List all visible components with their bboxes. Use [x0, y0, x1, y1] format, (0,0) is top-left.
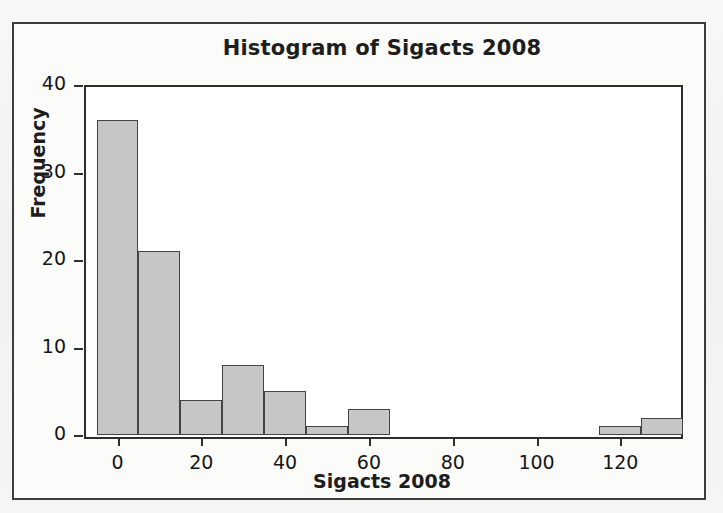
x-axis-tick-mark: [537, 437, 539, 446]
histogram-bar: [97, 120, 139, 435]
y-axis-tick-label: 0: [12, 422, 66, 444]
y-axis-tick-label: 10: [12, 335, 66, 357]
x-axis-tick-label: 0: [88, 451, 148, 473]
plot-area: [84, 85, 679, 435]
x-axis-tick-mark: [118, 437, 120, 446]
y-axis-tick-label: 20: [12, 247, 66, 269]
x-axis-title: Sigacts 2008: [84, 470, 680, 492]
histogram-bar: [599, 426, 641, 435]
x-axis-tick-mark: [285, 437, 287, 446]
histogram-figure: Histogram of Sigacts 2008 Frequency Siga…: [0, 0, 723, 513]
y-axis-tick-mark: [74, 348, 83, 350]
chart-title: Histogram of Sigacts 2008: [84, 36, 680, 60]
y-axis-tick-mark: [74, 435, 83, 437]
y-axis-tick-mark: [74, 85, 83, 87]
histogram-bar: [348, 409, 390, 435]
y-axis-tick-mark: [74, 173, 83, 175]
x-axis-tick-label: 80: [423, 451, 483, 473]
x-axis-tick-label: 100: [507, 451, 567, 473]
x-axis-tick-label: 20: [171, 451, 231, 473]
histogram-bar: [222, 365, 264, 435]
x-axis-tick-mark: [453, 437, 455, 446]
x-axis-tick-label: 60: [339, 451, 399, 473]
histogram-bar: [264, 391, 306, 435]
y-axis-tick-mark: [74, 260, 83, 262]
x-axis-tick-mark: [201, 437, 203, 446]
histogram-bar: [306, 426, 348, 435]
histogram-bar: [180, 400, 222, 435]
histogram-bar: [641, 418, 683, 436]
x-axis-tick-mark: [369, 437, 371, 446]
y-axis-tick-label: 40: [12, 72, 66, 94]
x-axis-tick-label: 120: [590, 451, 650, 473]
y-axis-tick-label: 30: [12, 160, 66, 182]
x-axis-tick-mark: [620, 437, 622, 446]
histogram-bar: [138, 251, 180, 435]
x-axis-tick-label: 40: [255, 451, 315, 473]
